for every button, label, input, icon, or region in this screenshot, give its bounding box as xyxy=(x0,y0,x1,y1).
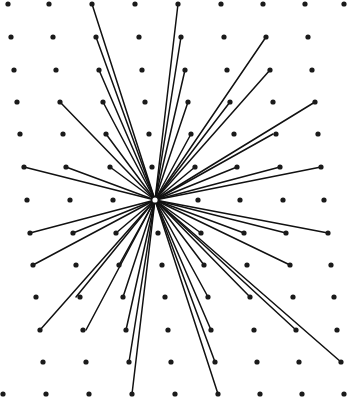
lattice-dot xyxy=(53,67,58,72)
lattice-dot xyxy=(80,327,85,332)
lattice-dot xyxy=(338,359,343,364)
lattice-dot xyxy=(96,67,101,72)
lattice-dot xyxy=(247,294,252,299)
lattice-dot xyxy=(155,230,160,235)
lattice-dot xyxy=(162,294,167,299)
lattice-dot xyxy=(67,197,72,202)
lattice-dot xyxy=(139,67,144,72)
lattice-dot xyxy=(315,131,320,136)
lattice-dot xyxy=(260,1,265,6)
lattice-dot xyxy=(17,131,22,136)
lattice-dot xyxy=(21,164,26,169)
lattice-dot xyxy=(277,164,282,169)
lattice-dot xyxy=(312,99,317,104)
lattice-dot xyxy=(341,391,346,396)
lattice-dot xyxy=(27,230,32,235)
lattice-dot xyxy=(208,327,213,332)
lattice-dot xyxy=(113,230,118,235)
lattice-dot xyxy=(136,34,141,39)
lattice-dot xyxy=(123,327,128,332)
lattice-dot xyxy=(37,327,42,332)
lattice-dot xyxy=(188,131,193,136)
lattice-dot xyxy=(257,391,262,396)
hub-circle xyxy=(152,197,159,204)
lattice-dot xyxy=(86,391,91,396)
lattice-dot xyxy=(331,294,336,299)
lattice-dot xyxy=(126,359,131,364)
lattice-dot xyxy=(107,164,112,169)
background xyxy=(0,0,351,397)
lattice-dot xyxy=(215,391,220,396)
lattice-dot xyxy=(263,34,268,39)
lattice-dot xyxy=(267,67,272,72)
lattice-dot xyxy=(11,67,16,72)
lattice-dot xyxy=(172,391,177,396)
lattice-dot xyxy=(201,262,206,267)
lattice-dot xyxy=(175,1,180,6)
center-hub xyxy=(152,197,159,204)
lattice-dot xyxy=(341,1,346,6)
radial-dot-diagram: Radial connections from central point on… xyxy=(0,0,351,397)
lattice-dot xyxy=(280,197,285,202)
lattice-dot xyxy=(0,391,5,396)
lattice-dot xyxy=(165,327,170,332)
lattice-dot xyxy=(254,359,259,364)
lattice-dot xyxy=(231,131,236,136)
lattice-dot xyxy=(237,197,242,202)
lattice-dot xyxy=(244,262,249,267)
lattice-dot xyxy=(83,359,88,364)
lattice-dot xyxy=(70,230,75,235)
lattice-dot xyxy=(283,230,288,235)
lattice-dot xyxy=(221,34,226,39)
lattice-dot xyxy=(212,359,217,364)
lattice-dot xyxy=(321,197,326,202)
lattice-dot xyxy=(14,99,19,104)
lattice-dot xyxy=(50,34,55,39)
lattice-dot xyxy=(149,164,154,169)
lattice-dot xyxy=(185,99,190,104)
lattice-dot xyxy=(100,99,105,104)
lattice-dot xyxy=(120,294,125,299)
lattice-dot xyxy=(73,262,78,267)
lattice-dot xyxy=(89,1,94,6)
lattice-dot xyxy=(159,262,164,267)
lattice-dot xyxy=(305,34,310,39)
lattice-dot xyxy=(234,164,239,169)
lattice-dot xyxy=(293,327,298,332)
lattice-dot xyxy=(93,34,98,39)
lattice-dot xyxy=(5,1,10,6)
lattice-dot xyxy=(8,34,13,39)
lattice-dot xyxy=(129,391,134,396)
lattice-dot xyxy=(116,262,121,267)
lattice-dot xyxy=(46,1,51,6)
lattice-dot xyxy=(224,67,229,72)
lattice-dot xyxy=(168,359,173,364)
lattice-dot xyxy=(328,262,333,267)
lattice-dot xyxy=(57,99,62,104)
lattice-dot xyxy=(132,1,137,6)
lattice-dot xyxy=(110,197,115,202)
lattice-dot xyxy=(309,67,314,72)
lattice-dot xyxy=(334,327,339,332)
lattice-dot xyxy=(205,294,210,299)
lattice-dot xyxy=(40,359,45,364)
lattice-dot xyxy=(30,262,35,267)
lattice-dot xyxy=(299,391,304,396)
lattice-dot xyxy=(182,67,187,72)
lattice-dot xyxy=(77,294,82,299)
lattice-dot xyxy=(43,391,48,396)
lattice-dot xyxy=(287,262,292,267)
lattice-dot xyxy=(178,34,183,39)
lattice-dot xyxy=(273,131,278,136)
lattice-dot xyxy=(146,131,151,136)
lattice-dot xyxy=(241,230,246,235)
lattice-dot xyxy=(325,230,330,235)
lattice-dot xyxy=(103,131,108,136)
lattice-dot xyxy=(270,99,275,104)
lattice-dot xyxy=(63,164,68,169)
lattice-dot xyxy=(296,359,301,364)
lattice-dot xyxy=(192,164,197,169)
lattice-dot xyxy=(318,164,323,169)
lattice-dot xyxy=(60,131,65,136)
lattice-dot xyxy=(24,197,29,202)
